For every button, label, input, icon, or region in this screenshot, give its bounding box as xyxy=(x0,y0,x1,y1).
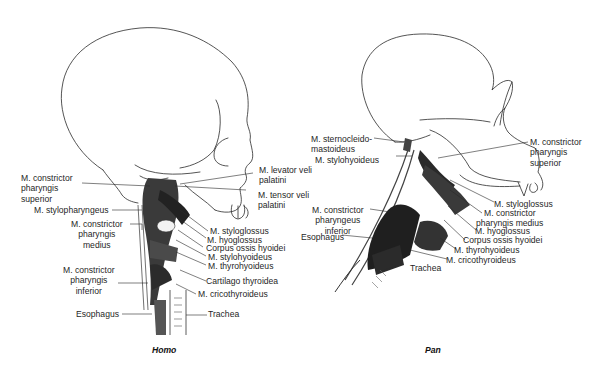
pan-label-thyrohyoideus: M. thyrohyoideus xyxy=(454,245,519,255)
label-line: superior xyxy=(21,194,73,204)
pan-label-cricothyroideus: M. cricothyroideus xyxy=(446,255,516,265)
label-line: M. constrictor xyxy=(530,137,582,147)
label-line: pharyngis xyxy=(71,229,123,239)
label-line: M. constrictor xyxy=(312,205,364,215)
homo-label-constrictor-inferior: M. constrictor pharyngis inferior xyxy=(63,265,115,296)
pan-label-corpus-hyoidei: Corpus ossis hyoidei xyxy=(463,235,542,245)
label-line: M. sternocleido- xyxy=(311,134,372,144)
homo-caption: Homo xyxy=(152,345,176,355)
label-line: mastoideus xyxy=(311,144,372,154)
homo-label-esophagus: Esophagus xyxy=(76,309,119,319)
homo-neck-muscles xyxy=(138,178,190,335)
pan-label-constrictor-superior: M. constrictor pharyngis superior xyxy=(530,137,582,168)
homo-label-cartilago-thyroidea: Cartilago thyroidea xyxy=(206,276,278,286)
pan-skull-outline xyxy=(362,34,543,196)
homo-label-constrictor-superior: M. constrictor pharyngis superior xyxy=(21,173,73,204)
homo-label-cricothyroideus: M. cricothyroideus xyxy=(198,289,268,299)
homo-label-constrictor-medius: M. constrictor pharyngis medius xyxy=(71,219,123,250)
label-line: M. levator veli xyxy=(259,165,312,175)
pan-label-esophagus: Esophagus xyxy=(301,232,344,242)
label-line: pharyngis xyxy=(530,147,582,157)
homo-label-trachea: Trachea xyxy=(208,309,239,319)
label-line: M. constrictor xyxy=(476,208,543,218)
label-line: superior xyxy=(530,158,582,168)
label-line: pharyngeus xyxy=(312,215,364,225)
label-line: pharyngis xyxy=(63,275,115,285)
homo-label-levator-veli: M. levator veli palatini xyxy=(259,165,312,186)
pan-label-stylohyoideus: M. stylohyoideus xyxy=(315,155,379,165)
label-line: palatini xyxy=(259,175,312,185)
label-line: pharyngis xyxy=(21,183,73,193)
label-line: medius xyxy=(71,240,123,250)
label-line: M. constrictor xyxy=(71,219,123,229)
label-line: palatini xyxy=(258,200,309,210)
homo-label-stylopharyngeus: M. stylopharyngeus xyxy=(34,205,109,215)
label-line: M. constrictor xyxy=(21,173,73,183)
label-line: M. tensor veli xyxy=(258,190,309,200)
label-line: M. constrictor xyxy=(63,265,115,275)
label-line: inferior xyxy=(63,286,115,296)
pan-caption: Pan xyxy=(425,345,441,355)
homo-label-tensor-veli: M. tensor veli palatini xyxy=(258,190,309,211)
homo-label-thyrohyoideus: M. thyrohyoideus xyxy=(208,261,273,271)
pan-label-trachea: Trachea xyxy=(410,263,441,273)
pan-label-sternocleidomastoideus: M. sternocleido- mastoideus xyxy=(311,134,372,155)
